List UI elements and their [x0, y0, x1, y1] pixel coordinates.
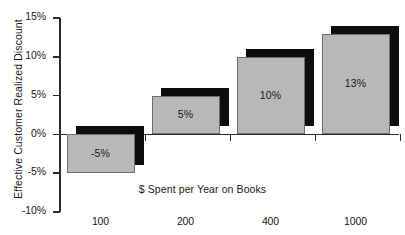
- y-axis-title: Effective Customer Realized Discount: [12, 9, 24, 209]
- bar-value-label: 5%: [152, 108, 220, 120]
- y-tick-label: -5%: [28, 165, 46, 177]
- y-tick-label: 5%: [31, 88, 46, 100]
- y-tick-label: 10%: [25, 49, 46, 61]
- y-tick-label: -10%: [22, 204, 46, 216]
- baseline-tick: [400, 134, 402, 141]
- y-tick-label: 0%: [31, 127, 46, 139]
- bar-value-label: 13%: [322, 77, 390, 89]
- bar-value-label: -5%: [67, 147, 135, 159]
- x-axis-title: $ Spent per Year on Books: [0, 183, 405, 195]
- bar-value-label: 10%: [237, 89, 305, 101]
- x-tick-label-1000: 1000: [322, 215, 390, 227]
- x-tick-label-100: 100: [67, 215, 135, 227]
- x-tick-label-400: 400: [237, 215, 305, 227]
- x-tick-label-200: 200: [152, 215, 220, 227]
- y-tick-label: 15%: [25, 10, 46, 22]
- bar-chart: Effective Customer Realized Discount 15%…: [0, 0, 405, 235]
